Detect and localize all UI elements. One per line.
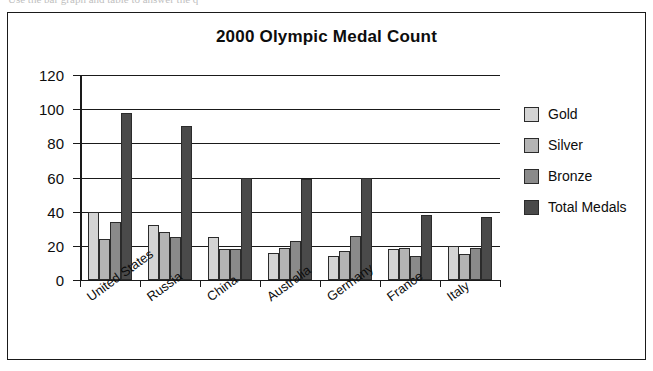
bar — [208, 237, 219, 280]
legend-swatch-icon — [524, 107, 539, 122]
y-tick-mark-60 — [73, 178, 80, 179]
x-tick-mark-4 — [320, 280, 321, 287]
y-tick-label-0: 0 — [56, 272, 64, 289]
bar — [459, 254, 470, 280]
legend-item-gold[interactable]: Gold — [524, 101, 644, 127]
chart-legend: GoldSilverBronzeTotal Medals — [524, 101, 644, 225]
y-tick-label-120: 120 — [39, 67, 64, 84]
x-tick-mark-0 — [80, 280, 81, 287]
gridline-80 — [80, 143, 500, 144]
x-axis-label-italy: Italy — [444, 278, 472, 304]
y-tick-mark-120 — [73, 75, 80, 76]
legend-swatch-icon — [524, 138, 539, 153]
bar — [448, 246, 459, 280]
chart-container: 2000 Olympic Medal Count 020406080100120… — [7, 12, 646, 360]
bar — [268, 253, 279, 280]
y-tick-label-100: 100 — [39, 101, 64, 118]
legend-label: Bronze — [548, 168, 592, 184]
legend-item-silver[interactable]: Silver — [524, 132, 644, 158]
legend-item-bronze[interactable]: Bronze — [524, 163, 644, 189]
legend-label: Total Medals — [548, 199, 627, 215]
legend-label: Silver — [548, 137, 583, 153]
bar — [181, 126, 192, 280]
scan-artifact-text: Use the bar graph and table to answer th… — [8, 0, 308, 5]
gridline-40 — [80, 212, 500, 213]
bar — [88, 212, 99, 280]
bar — [121, 113, 132, 280]
x-tick-mark-end — [500, 280, 501, 287]
legend-swatch-icon — [524, 169, 539, 184]
gridline-120 — [80, 75, 500, 76]
gridline-60 — [80, 178, 500, 179]
y-tick-label-80: 80 — [47, 135, 64, 152]
legend-label: Gold — [548, 106, 578, 122]
y-tick-mark-0 — [73, 280, 80, 281]
bar — [481, 217, 492, 280]
x-tick-mark-3 — [260, 280, 261, 287]
y-tick-label-60: 60 — [47, 169, 64, 186]
bar — [328, 256, 339, 280]
y-tick-mark-80 — [73, 143, 80, 144]
y-tick-label-40: 40 — [47, 203, 64, 220]
bar — [470, 248, 481, 280]
y-tick-mark-100 — [73, 109, 80, 110]
y-tick-label-20: 20 — [47, 237, 64, 254]
gridline-100 — [80, 109, 500, 110]
x-tick-mark-6 — [440, 280, 441, 287]
x-tick-mark-2 — [200, 280, 201, 287]
bar — [421, 215, 432, 280]
y-axis-line — [80, 75, 82, 280]
legend-swatch-icon — [524, 200, 539, 215]
y-tick-mark-40 — [73, 212, 80, 213]
y-tick-mark-20 — [73, 246, 80, 247]
x-tick-mark-5 — [380, 280, 381, 287]
chart-title: 2000 Olympic Medal Count — [8, 27, 645, 47]
x-tick-mark-1 — [140, 280, 141, 287]
bar — [241, 178, 252, 281]
legend-item-total-medals[interactable]: Total Medals — [524, 194, 644, 220]
bar — [388, 249, 399, 280]
